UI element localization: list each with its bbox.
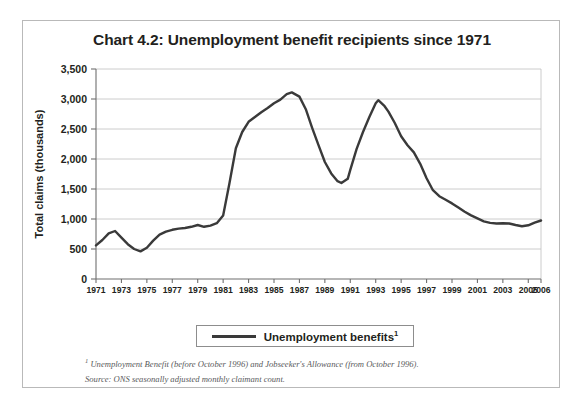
x-axis-tick-label: 1975 [137, 285, 156, 295]
x-axis-tick-label: 1971 [86, 285, 105, 295]
x-axis-tick-label: 1989 [315, 285, 334, 295]
x-axis-tick-label: 1973 [112, 285, 131, 295]
x-axis-tick-label: 1983 [239, 285, 258, 295]
legend-label: Unemployment benefits1 [264, 329, 399, 343]
source-note: Source: ONS seasonally adjusted monthly … [85, 374, 285, 384]
y-axis-tick-label: 1,000 [61, 213, 87, 225]
x-axis-tick-label: 1979 [188, 285, 207, 295]
y-axis-tick-label: 3,500 [61, 63, 87, 75]
y-axis-tick-label: 1,500 [61, 183, 87, 195]
y-axis-tick-label: 2,500 [61, 123, 87, 135]
x-axis-tick-label: 2003 [493, 285, 512, 295]
data-line-unemployment-benefits [96, 92, 541, 251]
x-axis-tick-label: 1987 [290, 285, 309, 295]
y-axis-tick-label: 3,000 [61, 93, 87, 105]
x-axis-tick-label: 1981 [214, 285, 233, 295]
y-axis-tick-label: 0 [81, 273, 87, 285]
y-axis-title: Total claims (thousands) [33, 109, 45, 238]
y-axis-tick-label: 2,000 [61, 153, 87, 165]
x-axis-tick-label: 1985 [264, 285, 283, 295]
footnote-1: 1 Unemployment Benefit (before October 1… [85, 357, 419, 369]
x-axis-tick-label: 1997 [417, 285, 436, 295]
chart-legend: Unemployment benefits1 [196, 325, 414, 347]
x-axis-tick-label: 2006 [531, 285, 550, 295]
x-axis-tick-label: 1977 [163, 285, 182, 295]
x-axis-tick-label: 1999 [442, 285, 461, 295]
x-axis-tick-label: 2001 [468, 285, 487, 295]
x-axis-tick-label: 1993 [366, 285, 385, 295]
legend-line-swatch [212, 335, 256, 338]
chart-figure-frame: Chart 4.2: Unemployment benefit recipien… [22, 20, 560, 388]
x-axis-tick-label: 1995 [392, 285, 411, 295]
y-axis-tick-label: 500 [69, 243, 87, 255]
x-axis-tick-label: 1991 [341, 285, 360, 295]
